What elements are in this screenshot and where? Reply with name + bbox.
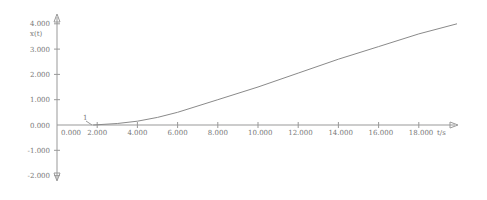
y-tick-label: 3.000 [30, 46, 50, 54]
curve-label: 1 [83, 114, 87, 122]
x-tick-label: 18.000 [409, 129, 434, 137]
y-tick-label: 1.000 [30, 96, 50, 104]
curve-label-annotation: 1 [83, 114, 92, 125]
y-tick-label: 2.000 [30, 71, 50, 79]
x-tick-label: 4.000 [127, 129, 147, 137]
x-tick-label: 12.000 [288, 129, 313, 137]
x-tick-label: 8.000 [208, 129, 228, 137]
y-axis-label: x(t) [30, 30, 42, 38]
y-tick-label: 4.000 [30, 20, 50, 28]
x-tick-label: 16.000 [369, 129, 394, 137]
curve-label-leader [86, 121, 92, 125]
y-tick-label: 0.000 [30, 122, 50, 130]
y-tick-label: -1.000 [28, 147, 50, 155]
x-tick-label: 0.000 [61, 129, 81, 137]
x-tick-label: 2.000 [87, 129, 107, 137]
x-tick-label: 10.000 [248, 129, 273, 137]
line-chart: 4.0003.0002.0001.0000.000-1.000-2.000 x(… [0, 0, 487, 200]
y-tick-label: -2.000 [28, 172, 50, 180]
y-axis: 4.0003.0002.0001.0000.000-1.000-2.000 x(… [28, 14, 60, 181]
x-tick-label: 14.000 [328, 129, 353, 137]
series-line-1 [93, 24, 457, 125]
x-axis: 0.0002.0004.0006.0008.00010.00012.00014.… [57, 122, 458, 137]
x-tick-label: 6.000 [168, 129, 188, 137]
x-axis-label: t/s [437, 129, 446, 137]
